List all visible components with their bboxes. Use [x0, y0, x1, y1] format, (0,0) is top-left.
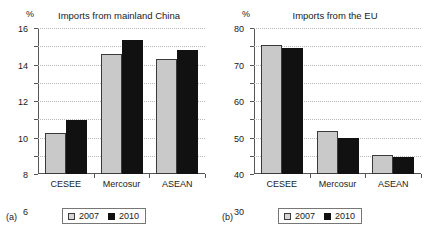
legend-swatch-2010-icon: [108, 213, 115, 220]
x-axis-tick-label-mercosur: Mercosur: [103, 180, 141, 189]
legend-entry-2007: 2007: [284, 211, 315, 221]
figure-two-panel-bar-charts: % Imports from mainland China 0246810121…: [0, 0, 431, 235]
y-axis-tick: 14: [34, 46, 38, 47]
y-axis-tick: 10: [34, 83, 38, 84]
bar-cesee-2010: [66, 120, 87, 174]
panel-tag-b: (b): [222, 212, 233, 222]
y-axis-tick: 4: [34, 138, 38, 139]
y-axis-tick: 12: [34, 65, 38, 66]
bar-asean-2007: [372, 155, 393, 174]
legend-b: 2007 2010: [278, 208, 362, 224]
legend-swatch-2007-icon: [284, 213, 291, 220]
legend-swatch-2010-icon: [324, 213, 331, 220]
y-axis-tick-label: 40: [234, 171, 244, 180]
y-axis-tick: 20: [250, 138, 254, 139]
x-axis-tick-label-mercosur: Mercosur: [319, 180, 357, 189]
y-axis-tick: 40: [250, 101, 254, 102]
bar-mercosur-2010: [338, 138, 359, 174]
y-axis-tick: 2: [34, 156, 38, 157]
panel-tag-a: (a): [6, 212, 17, 222]
bar-asean-2010: [393, 157, 414, 174]
x-axis-tick-label-asean: ASEAN: [378, 180, 409, 189]
y-axis-tick-label: 30: [234, 207, 244, 216]
plot-area-a: 0246810121416 CESEEMercosurASEAN: [38, 28, 205, 174]
bar-cesee-2007: [261, 45, 282, 174]
panel-b: % Imports from the EU 01020304050607080 …: [216, 0, 431, 235]
x-axis-tick: [421, 174, 422, 178]
x-axis-tick-label-cesee: CESEE: [267, 180, 298, 189]
legend-entry-2010: 2010: [108, 211, 139, 221]
y-axis-tick-label: 14: [18, 61, 28, 70]
y-axis-tick-label: 16: [18, 25, 28, 34]
y-axis-tick-label: 70: [234, 61, 244, 70]
y-axis-tick-label: 60: [234, 98, 244, 107]
legend-a: 2007 2010: [62, 208, 146, 224]
x-axis-tick: [365, 174, 366, 178]
x-axis-tick: [149, 174, 150, 178]
bar-mercosur-2007: [101, 54, 122, 174]
y-axis-tick: 80: [250, 28, 254, 29]
panel-a: % Imports from mainland China 0246810121…: [0, 0, 215, 235]
y-axis-tick-label: 10: [18, 134, 28, 143]
legend-label-2007: 2007: [295, 211, 315, 221]
x-axis-tick: [205, 174, 206, 178]
bar-asean-2007: [156, 59, 177, 174]
chart-title: Imports from the EU: [244, 10, 426, 21]
gridline: [254, 28, 421, 29]
y-axis-tick: 6: [34, 119, 38, 120]
legend-label-2010: 2010: [335, 211, 355, 221]
y-axis-tick: 0: [250, 174, 254, 175]
bar-mercosur-2010: [122, 40, 143, 174]
y-axis-tick: 0: [34, 174, 38, 175]
legend-entry-2007: 2007: [68, 211, 99, 221]
y-axis-tick: 50: [250, 83, 254, 84]
y-axis-tick: 10: [250, 156, 254, 157]
y-axis-tick-label: 12: [18, 98, 28, 107]
y-axis-tick-label: 8: [23, 171, 28, 180]
y-axis-tick: 30: [250, 119, 254, 120]
x-axis-tick: [310, 174, 311, 178]
bar-cesee-2007: [45, 133, 66, 174]
bar-mercosur-2007: [317, 131, 338, 174]
bar-asean-2010: [177, 50, 198, 174]
x-axis-tick-label-cesee: CESEE: [51, 180, 82, 189]
y-axis-tick: 70: [250, 46, 254, 47]
y-axis-tick: 16: [34, 28, 38, 29]
legend-label-2010: 2010: [119, 211, 139, 221]
y-axis-tick-label: 50: [234, 134, 244, 143]
plot-area-b: 01020304050607080 CESEEMercosurASEAN: [254, 28, 421, 174]
chart-title: Imports from mainland China: [28, 10, 210, 21]
y-axis-tick-label: 6: [23, 207, 28, 216]
legend-entry-2010: 2010: [324, 211, 355, 221]
bar-cesee-2010: [282, 48, 303, 174]
y-axis-tick-label: 80: [234, 25, 244, 34]
legend-swatch-2007-icon: [68, 213, 75, 220]
x-axis-tick: [94, 174, 95, 178]
legend-label-2007: 2007: [79, 211, 99, 221]
gridline: [38, 28, 205, 29]
x-axis-tick-label-asean: ASEAN: [162, 180, 193, 189]
y-axis-tick: 8: [34, 101, 38, 102]
y-axis-tick: 60: [250, 65, 254, 66]
